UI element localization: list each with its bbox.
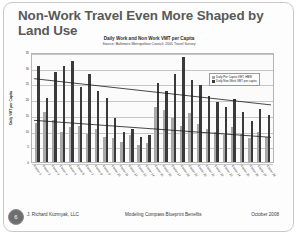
x-label-cell: Cluster 26 [247, 164, 256, 198]
x-label-cell: Cluster 14 [144, 164, 153, 198]
y-tick-label: 15 [26, 114, 29, 118]
slide-footer: 6 J. Richard Kuzmyak, LLC Modeling Compa… [0, 208, 297, 224]
x-label-cell: Cluster 8 [92, 164, 101, 198]
x-label-cell: Cluster 6 [75, 164, 84, 198]
chart-title: Daily Work and Non Work VMT per Capita [17, 36, 281, 42]
footer-center: Modeling Compass Blueprint Benefits [125, 212, 202, 217]
x-label-cell: Cluster 13 [135, 164, 144, 198]
plot-frame: Daily Per Capita VMT, HBWDaily Non Work … [31, 53, 274, 163]
x-tick-label: Cluster 28 [265, 164, 276, 177]
trend-line [34, 120, 271, 137]
y-axis-title: Daily VMT per Capita [9, 91, 13, 125]
x-label-cell: Cluster 5 [66, 164, 75, 198]
plot-area: Daily VMT per Capita 05101520253035 Dail… [31, 53, 274, 163]
x-label-cell: Cluster 1 [32, 164, 41, 198]
y-tick-label: 25 [26, 82, 29, 86]
legend-swatch-icon [212, 80, 215, 83]
chart-source: Source: Baltimore Metropolitan Council, … [17, 42, 281, 47]
x-label-cell: Cluster 10 [109, 164, 118, 198]
y-tick-label: 10 [26, 130, 29, 134]
x-label-cell: Cluster 12 [127, 164, 136, 198]
y-tick-label: 30 [26, 67, 29, 71]
x-label-cell: Cluster 16 [161, 164, 170, 198]
chart-container: Daily Work and Non Work VMT per Capita S… [17, 36, 281, 199]
chart-legend: Daily Per Capita VMT, HBWDaily Non Work … [209, 73, 260, 86]
legend-swatch-icon [212, 76, 215, 79]
y-tick-label: 0 [27, 161, 29, 165]
x-label-cell: Cluster 19 [187, 164, 196, 198]
x-label-cell: Cluster 4 [58, 164, 67, 198]
y-tick-label: 5 [27, 145, 29, 149]
footer-left: J. Richard Kuzmyak, LLC [27, 212, 79, 217]
x-label-cell: Cluster 21 [204, 164, 213, 198]
x-label-cell: Cluster 23 [221, 164, 230, 198]
x-label-cell: Cluster 3 [49, 164, 58, 198]
x-label-cell: Cluster 24 [230, 164, 239, 198]
x-label-cell: Cluster 25 [239, 164, 248, 198]
y-axis-ticks: 05101520253035 [20, 53, 30, 163]
x-label-cell: Cluster 18 [178, 164, 187, 198]
x-label-cell: Cluster 7 [84, 164, 93, 198]
slide-number-badge: 6 [8, 209, 24, 225]
x-label-cell: Cluster 9 [101, 164, 110, 198]
page-title: Non-Work Travel Even More Shaped by Land… [18, 8, 276, 39]
legend-item: Daily Non Work VMT per capita [212, 80, 256, 83]
y-tick-label: 35 [26, 51, 29, 55]
x-label-cell: Cluster 20 [196, 164, 205, 198]
x-label-cell: Cluster 17 [170, 164, 179, 198]
x-label-cell: Cluster 15 [153, 164, 162, 198]
x-label-cell: Cluster 2 [41, 164, 50, 198]
legend-label: Daily Non Work VMT per capita [216, 80, 256, 83]
presentation-slide: Non-Work Travel Even More Shaped by Land… [0, 0, 297, 233]
x-label-cell: Cluster 11 [118, 164, 127, 198]
y-tick-label: 20 [26, 98, 29, 102]
x-axis-labels: Cluster 1Cluster 2Cluster 3Cluster 4Clus… [31, 164, 274, 198]
trend-lines [32, 54, 273, 162]
x-label-cell: Cluster 22 [213, 164, 222, 198]
x-label-cell: Cluster 27 [256, 164, 265, 198]
x-label-cell: Cluster 28 [264, 164, 273, 198]
footer-right: October 2008 [251, 212, 279, 217]
